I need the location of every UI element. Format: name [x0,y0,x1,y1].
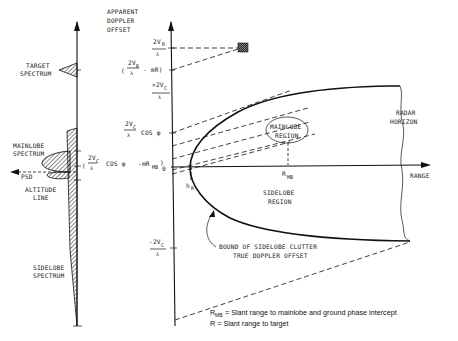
psd-axis-arrow-icon [10,169,19,175]
range-axis [171,165,423,167]
tick-label-target-doppler: ( 2V R λ - mR) [121,59,163,76]
target-apparent-doppler-dashed-line [172,49,238,70]
svg-text:λ: λ [158,94,161,100]
mainlobe-spectrum-label-2: SPECTRUM [13,150,44,157]
svg-text:C: C [164,85,167,91]
psd-axis-label: PSD [21,173,33,180]
mainlobe-dashed-line-5 [172,142,290,174]
spectrum-axis-arrow-icon [74,21,80,31]
rmb-label-sub: MB [287,174,293,180]
svg-text:λ: λ [130,70,133,76]
mainlobe-region-ellipse [266,117,308,143]
target-spectrum-shape [59,63,77,77]
svg-text:C: C [161,242,164,248]
bound-leader-arrow-icon [209,210,215,217]
range-axis-label: RANGE [410,172,430,179]
sidelobe-region-label: SIDELOBE [263,189,294,196]
svg-text:2V: 2V [128,59,136,66]
range-axis-arrow-icon [421,162,431,168]
psd-spectrum-panel: TARGET SPECTRUM MAINLOBE SPECTRUM PSD AL… [10,21,164,326]
mainlobe-spectrum-label: MAINLOBE [13,142,44,149]
legend-rmb-sub: MB [215,312,223,318]
svg-text:COS φ: COS φ [106,160,126,168]
mainlobe-region-label: MAINLOBE [270,123,301,130]
doppler-axis-title: APPARENT [107,8,138,15]
svg-text:- mR): - mR) [143,66,163,73]
svg-text:2V: 2V [125,120,133,127]
doppler-axis-arrow-icon [168,21,174,31]
mainlobe-region-label-2: REGION [275,132,299,139]
svg-text:R: R [162,41,166,47]
legend: R MB = Slant range to mainlobe and groun… [210,308,397,328]
tick-label-2vr: 2V R λ [152,38,166,57]
target-spectrum-label-2: SPECTRUM [20,70,51,77]
altitude-line-label: ALTITUDE [25,186,56,193]
bound-note-label-2: TRUE DOPPLER OFFSET [233,252,308,259]
sidelobe-region-label-2: REGION [268,198,292,205]
svg-text:λ: λ [127,132,130,138]
rmb-label: R [282,170,286,177]
svg-text:C: C [133,124,136,130]
legend-rmb-text: = Slant range to mainlobe and ground pha… [225,308,397,317]
hr-label: h [186,182,190,189]
svg-text:MB: MB [152,164,158,170]
doppler-axis-title-2: DOPPLER [107,17,135,24]
radar-horizon-label-2: HORIZON [390,118,418,125]
tick-label-zero: 0 [162,165,166,172]
svg-text:-2V: -2V [149,238,161,245]
tick-label-plus-2vc: +2V C λ [152,81,170,100]
sidelobe-spectrum-label: SIDELOBE [33,264,64,271]
svg-text:2V: 2V [88,154,96,161]
target-marker-icon [238,43,248,52]
tick-label-vc-cos-phi: 2V C λ COS φ [124,120,161,138]
svg-text:2V: 2V [153,38,161,45]
svg-text:(: ( [82,162,86,169]
mainlobe-doppler-label: ( 2V C λ COS φ -mR MB ) [82,154,164,171]
mainlobe-spectrum-shape [42,151,70,172]
target-spectrum-label: TARGET [26,62,50,69]
bound-leader-line [207,214,216,247]
bound-note-label: BOUND OF SIDELOBE CLUTTER [219,243,317,250]
svg-text:COS φ: COS φ [141,129,161,137]
doppler-clutter-diagram: TARGET SPECTRUM MAINLOBE SPECTRUM PSD AL… [0,0,458,341]
doppler-axis-title-3: OFFSET [107,26,131,33]
svg-text:(: ( [121,67,125,74]
svg-text:-mR: -mR [138,160,150,167]
altitude-line-label-2: LINE [33,194,49,201]
svg-text:λ: λ [90,165,93,171]
svg-text:λ: λ [156,51,159,57]
sidelobe-spectrum-label-2: SPECTRUM [33,272,64,279]
legend-r-text: R = Slant range to target [210,319,289,328]
tick-label-minus-2vc: -2V C λ [149,238,166,257]
svg-text:λ: λ [156,251,159,257]
sidelobe-clutter-bound-curve [190,86,410,241]
radar-horizon-label: RADAR [396,109,416,116]
svg-text:+2V: +2V [152,81,164,88]
altitude-line-shape [47,172,69,179]
